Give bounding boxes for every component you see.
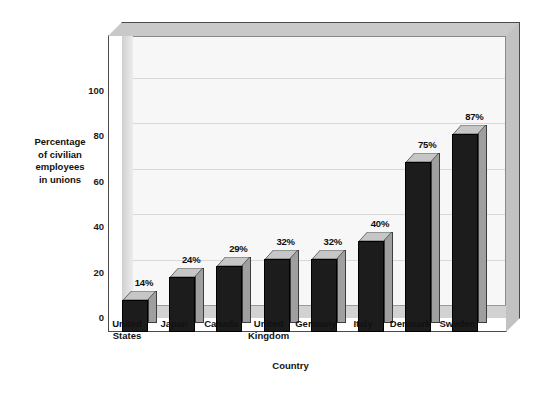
bar-side-face bbox=[431, 153, 440, 323]
x-axis-tick-label-line: Sweden bbox=[426, 318, 488, 330]
bar-side-face bbox=[478, 125, 487, 323]
bar-value-label: 24% bbox=[169, 254, 213, 265]
y-axis-tick-label: 60 bbox=[78, 176, 104, 187]
bar-value-label: 29% bbox=[216, 243, 260, 254]
y-axis-tick-label: 20 bbox=[78, 267, 104, 278]
bar-value-label: 40% bbox=[358, 218, 402, 229]
bar-side-face bbox=[242, 257, 251, 323]
y-axis-tick-label: 100 bbox=[78, 85, 104, 96]
bar-series: 14%24%29%32%32%40%75%87% bbox=[122, 82, 507, 332]
bar: 75% bbox=[405, 150, 443, 332]
bar-front-face bbox=[405, 162, 431, 332]
y-axis-ticks: 020406080100 bbox=[74, 22, 104, 332]
bar-side-face bbox=[337, 250, 346, 323]
bar-top-face bbox=[216, 257, 251, 266]
x-axis-tick-label-line: States bbox=[96, 330, 158, 342]
bar: 40% bbox=[358, 229, 396, 332]
x-axis-ticks: UnitedStatesJapanCanadaUnitedKingdomGerm… bbox=[108, 318, 520, 358]
bar-top-face bbox=[122, 291, 157, 300]
bar: 87% bbox=[452, 122, 490, 332]
x-axis-tick-label-line: Kingdom bbox=[238, 330, 300, 342]
bar-value-label: 32% bbox=[264, 236, 308, 247]
bar-top-face bbox=[358, 232, 393, 241]
bar-value-label: 75% bbox=[405, 139, 449, 150]
gridline bbox=[123, 78, 505, 79]
y-axis-tick-label: 80 bbox=[78, 130, 104, 141]
bar-front-face bbox=[452, 134, 478, 332]
frame-right-face bbox=[506, 22, 520, 332]
bar-value-label: 14% bbox=[122, 277, 166, 288]
bar-value-label: 87% bbox=[452, 111, 496, 122]
bar-top-face bbox=[264, 250, 299, 259]
bar-side-face bbox=[290, 250, 299, 323]
x-axis-title: Country bbox=[12, 360, 557, 371]
frame-top-face bbox=[108, 22, 520, 36]
bar-top-face bbox=[311, 250, 346, 259]
bar-chart: Percentage of civilian employees in unio… bbox=[0, 0, 557, 396]
bar-top-face bbox=[452, 125, 487, 134]
bar-top-face bbox=[169, 268, 204, 277]
y-axis-tick-label: 40 bbox=[78, 221, 104, 232]
x-axis-tick-label: Sweden bbox=[426, 318, 488, 330]
bar-side-face bbox=[384, 232, 393, 323]
bar-top-face bbox=[405, 153, 440, 162]
bar-value-label: 32% bbox=[311, 236, 355, 247]
